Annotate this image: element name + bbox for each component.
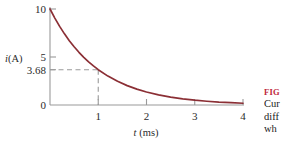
- y-tick-label-10: 10: [35, 3, 47, 15]
- y-tick-label-3.68: 3.68: [27, 64, 47, 76]
- figure-caption: FIG Cur diff wh: [264, 86, 288, 136]
- figure-container: 10 5 3.68 0 1 2 3 4 i(A) t(ms) FIG Cur d…: [0, 0, 288, 141]
- x-axis-title-unit: (ms): [139, 127, 159, 139]
- y-tick-label-0: 0: [41, 99, 47, 111]
- figure-caption-line-3: wh: [264, 123, 288, 135]
- figure-caption-line-2: diff: [264, 111, 288, 123]
- x-tick-label-4: 4: [240, 110, 246, 122]
- y-axis-title-unit: (A): [8, 53, 23, 65]
- y-axis-title: i(A): [5, 53, 23, 65]
- x-tick-label-2: 2: [144, 110, 150, 122]
- y-tick-label-5: 5: [41, 51, 47, 63]
- figure-caption-line-1: Cur: [264, 98, 288, 110]
- figure-caption-head: FIG: [264, 86, 288, 98]
- x-tick-label-3: 3: [192, 110, 198, 122]
- exponential-decay-chart: 10 5 3.68 0 1 2 3 4 i(A) t(ms): [0, 0, 288, 141]
- x-tick-label-1: 1: [96, 110, 102, 122]
